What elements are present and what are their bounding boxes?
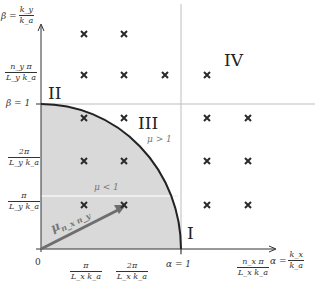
mode-marker-icon	[245, 158, 251, 164]
x-label-den: k_a	[288, 260, 304, 270]
mu-less-label: μ < 1	[94, 183, 119, 192]
y-label-fraction: k_y k_a	[19, 6, 35, 25]
x-tick-pi-den: L_x k_a	[70, 271, 102, 281]
mode-marker-icon	[245, 202, 251, 208]
y-tick-ny-num: n_y π	[9, 63, 32, 72]
mode-marker-icon	[204, 158, 210, 164]
y-tick-pi-den: L_y k_a	[8, 201, 40, 211]
mode-marker-icon	[121, 72, 127, 78]
x-tick-2pi: 2π L_x k_a	[116, 262, 148, 281]
region-III-label: III	[138, 115, 158, 132]
mu-greater-label: μ > 1	[147, 135, 172, 144]
x-tick-nx: n_x π L_x k_a	[237, 258, 269, 277]
mode-marker-icon	[204, 115, 210, 121]
mode-marker-icon	[121, 31, 127, 37]
y-axis-label: β = k_y k_a	[1, 6, 34, 25]
y-tick-2pi: 2π L_y k_a	[8, 148, 40, 167]
y-tick-pi: π L_y k_a	[8, 192, 40, 211]
x-tick-2pi-den: L_x k_a	[116, 271, 148, 281]
mode-marker-icon	[204, 202, 210, 208]
y-label-den: k_a	[19, 15, 35, 25]
region-I-label: I	[187, 225, 194, 242]
y-tick-ny-den: L_y k_a	[5, 72, 37, 82]
mode-marker-icon	[81, 72, 87, 78]
x-tick-pi: π L_x k_a	[70, 262, 102, 281]
y-label-num: k_y	[19, 6, 34, 15]
region-II-label: II	[48, 85, 61, 102]
y-tick-pi-num: π	[20, 192, 27, 201]
mode-marker-icon	[162, 72, 168, 78]
y-tick-2pi-num: 2π	[18, 148, 30, 157]
x-tick-pi-num: π	[82, 262, 89, 271]
diagram-graphics	[0, 0, 321, 292]
x-tick-alpha-one: α = 1	[166, 260, 191, 269]
x-label-fraction: k_x k_a	[288, 251, 304, 270]
x-tick-2pi-num: 2π	[126, 262, 138, 271]
y-label-lhs: β =	[1, 11, 17, 21]
origin-label: 0	[35, 258, 41, 267]
mode-marker-icon	[121, 115, 127, 121]
mode-marker-icon	[204, 72, 210, 78]
x-tick-nx-den: L_x k_a	[237, 267, 269, 277]
x-axis-label: α = k_x k_a	[270, 251, 304, 270]
y-tick-ny: n_y π L_y k_a	[5, 63, 37, 82]
x-tick-nx-num: n_x π	[241, 258, 264, 267]
y-tick-2pi-den: L_y k_a	[8, 157, 40, 167]
x-label-num: k_x	[289, 251, 304, 260]
x-label-lhs: α =	[270, 256, 286, 266]
mode-marker-icon	[245, 115, 251, 121]
region-IV-label: IV	[224, 52, 243, 69]
diagram-canvas: β = k_y k_a n_y π L_y k_a β = 1 2π L_y k…	[0, 0, 321, 292]
mode-marker-icon	[81, 31, 87, 37]
y-tick-beta-one: β = 1	[6, 99, 30, 108]
